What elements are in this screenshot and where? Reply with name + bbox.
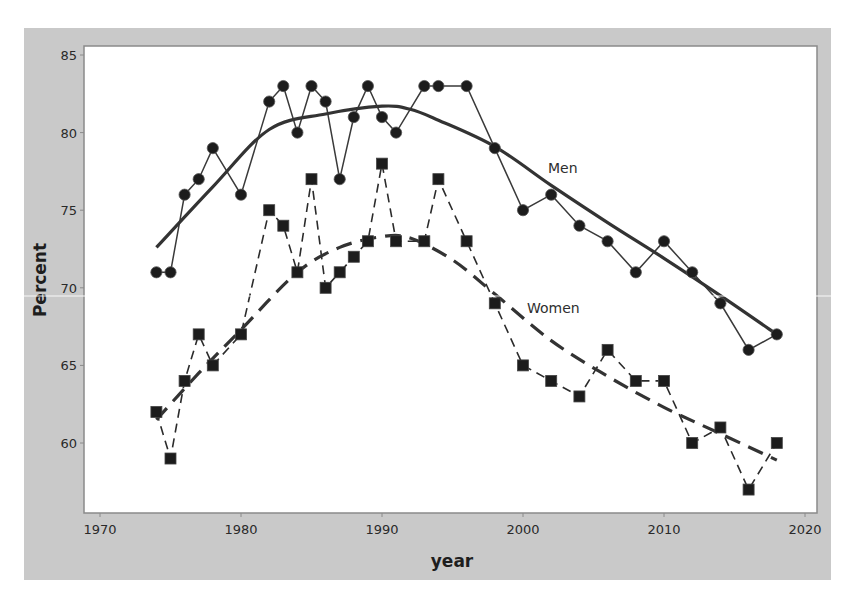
y-tick-label: 65 bbox=[60, 358, 77, 373]
women-data-point bbox=[743, 484, 754, 495]
women-data-point bbox=[362, 236, 373, 247]
women-data-point bbox=[377, 158, 388, 169]
men-data-point bbox=[235, 189, 246, 200]
x-tick-label: 1980 bbox=[224, 522, 257, 537]
women-data-point bbox=[151, 406, 162, 417]
men-data-point bbox=[179, 189, 190, 200]
men-data-point bbox=[602, 236, 613, 247]
women-data-point bbox=[320, 282, 331, 293]
x-tick-label: 2010 bbox=[647, 522, 680, 537]
men-data-point bbox=[715, 298, 726, 309]
women-data-point bbox=[687, 438, 698, 449]
women-data-point bbox=[518, 360, 529, 371]
women-data-point bbox=[546, 375, 557, 386]
men-data-point bbox=[771, 329, 782, 340]
women-data-point bbox=[461, 236, 472, 247]
women-data-point bbox=[334, 267, 345, 278]
plot-area bbox=[84, 46, 817, 513]
men-data-point bbox=[630, 267, 641, 278]
women-data-point bbox=[348, 251, 359, 262]
men-data-point bbox=[433, 80, 444, 91]
men-data-point bbox=[348, 111, 359, 122]
men-data-point bbox=[743, 344, 754, 355]
x-tick-label: 2020 bbox=[788, 522, 821, 537]
men-data-point bbox=[207, 143, 218, 154]
women-data-point bbox=[630, 375, 641, 386]
men-data-point bbox=[461, 80, 472, 91]
women-data-point bbox=[278, 220, 289, 231]
women-data-point bbox=[771, 438, 782, 449]
men-data-point bbox=[658, 236, 669, 247]
women-data-point bbox=[715, 422, 726, 433]
x-tick-label: 1990 bbox=[365, 522, 398, 537]
women-data-point bbox=[236, 329, 247, 340]
men-data-point bbox=[419, 80, 430, 91]
x-tick-label: 1970 bbox=[83, 522, 116, 537]
women-data-point bbox=[165, 453, 176, 464]
y-tick-label: 80 bbox=[60, 126, 77, 141]
women-data-point bbox=[264, 205, 275, 216]
y-tick-label: 60 bbox=[60, 436, 77, 451]
men-data-point bbox=[151, 267, 162, 278]
men-series-label: Men bbox=[548, 160, 578, 176]
men-data-point bbox=[687, 267, 698, 278]
y-tick-label: 85 bbox=[60, 48, 77, 63]
x-axis-title: year bbox=[431, 551, 474, 571]
women-data-point bbox=[602, 344, 613, 355]
x-tick-label: 2000 bbox=[506, 522, 539, 537]
women-data-point bbox=[292, 267, 303, 278]
men-data-point bbox=[193, 174, 204, 185]
men-data-point bbox=[165, 267, 176, 278]
women-data-point bbox=[391, 236, 402, 247]
women-data-point bbox=[489, 298, 500, 309]
men-data-point bbox=[391, 127, 402, 138]
women-series-label: Women bbox=[527, 300, 580, 316]
men-data-point bbox=[292, 127, 303, 138]
women-data-point bbox=[306, 174, 317, 185]
women-data-point bbox=[433, 174, 444, 185]
y-tick-label: 75 bbox=[60, 203, 77, 218]
men-data-point bbox=[278, 80, 289, 91]
women-data-point bbox=[193, 329, 204, 340]
men-data-point bbox=[264, 96, 275, 107]
women-data-point bbox=[419, 236, 430, 247]
men-data-point bbox=[306, 80, 317, 91]
women-data-point bbox=[179, 375, 190, 386]
men-data-point bbox=[362, 80, 373, 91]
men-data-point bbox=[376, 111, 387, 122]
y-axis-title: Percent bbox=[30, 243, 50, 317]
men-data-point bbox=[334, 174, 345, 185]
men-data-point bbox=[546, 189, 557, 200]
men-data-point bbox=[489, 143, 500, 154]
y-tick-label: 70 bbox=[60, 281, 77, 296]
men-data-point bbox=[517, 205, 528, 216]
men-data-point bbox=[574, 220, 585, 231]
women-data-point bbox=[659, 375, 670, 386]
women-data-point bbox=[574, 391, 585, 402]
women-data-point bbox=[207, 360, 218, 371]
men-data-point bbox=[320, 96, 331, 107]
line-chart: 606570758085 197019801990200020102020 ye… bbox=[0, 0, 854, 603]
